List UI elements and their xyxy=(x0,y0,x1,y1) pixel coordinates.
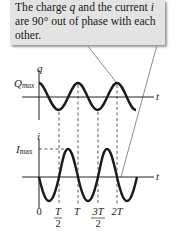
callout-text: The charge q and the current i are 90° o… xyxy=(15,1,159,43)
callout-line3: other. xyxy=(15,29,41,42)
callout-i-symbol: i xyxy=(151,1,154,14)
time-tick-labels: 0 T 2 T 3T 2 2T xyxy=(36,206,123,229)
tick-half-period-num: T xyxy=(55,206,62,217)
current-x-axis-label: t xyxy=(156,170,160,182)
tick-period: T xyxy=(74,206,81,217)
callout-line1-mid: and the current xyxy=(75,1,150,14)
callout-line1-pre: The charge xyxy=(15,1,70,14)
tick-0: 0 xyxy=(36,206,41,217)
tick-two-period: 2T xyxy=(111,206,123,217)
callout-line2: are 90° out of phase with each xyxy=(15,15,156,28)
qmax-label: Qmax xyxy=(14,77,35,90)
current-curve xyxy=(39,149,137,201)
charge-y-axis-label: q xyxy=(37,62,43,74)
tick-three-half-period-num: 3T xyxy=(91,206,104,217)
imax-label: Imax xyxy=(15,143,33,156)
pointer-to-charge-peak xyxy=(87,45,116,82)
tick-half-period-den: 2 xyxy=(55,218,60,229)
tick-three-half-period-den: 2 xyxy=(95,218,100,229)
phase-callout-box: The charge q and the current i are 90° o… xyxy=(10,0,165,45)
pointer-to-current-zero xyxy=(121,45,157,177)
charge-x-axis-label: t xyxy=(156,90,160,102)
current-y-axis-label: i xyxy=(37,130,40,142)
